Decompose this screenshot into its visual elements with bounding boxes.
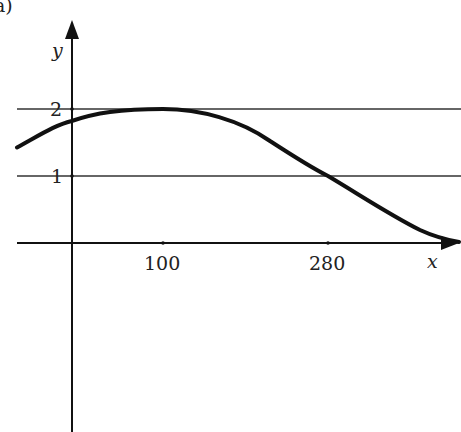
tick-x-100 <box>161 241 165 245</box>
y-axis-label: y <box>51 39 63 61</box>
y-axis-arrow-icon <box>65 20 79 39</box>
x-axis-label: x <box>427 250 438 272</box>
x-tick-label-280: 280 <box>309 252 345 274</box>
tick-x-280 <box>326 241 330 245</box>
x-tick-label-100: 100 <box>144 252 180 274</box>
tick-y-1 <box>70 174 74 178</box>
figure-label: a) <box>0 0 13 16</box>
y-tick-label-2: 2 <box>50 98 62 120</box>
chart: a) y x 2 1 100 280 <box>0 0 461 432</box>
tick-y-2 <box>70 107 74 111</box>
y-tick-label-1: 1 <box>51 165 63 187</box>
